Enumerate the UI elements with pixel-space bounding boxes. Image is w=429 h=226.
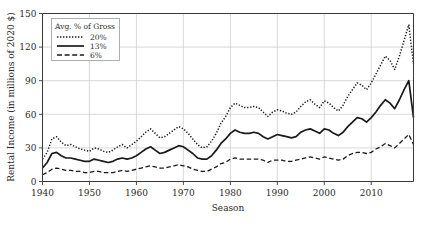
- x-axis-ticks: 19401950196019701980199020002010: [31, 182, 383, 198]
- y-tick-label: 30: [25, 143, 37, 153]
- y-tick-label: 60: [25, 110, 37, 120]
- x-tick-label: 1940: [31, 188, 54, 198]
- x-tick-label: 2010: [360, 188, 383, 198]
- chart-legend: Avg. % of Gross 20% 13% 6%: [52, 19, 120, 61]
- x-axis-title: Season: [212, 203, 245, 213]
- x-tick-label: 1960: [125, 188, 148, 198]
- x-tick-label: 1950: [78, 188, 101, 198]
- x-tick-label: 2000: [313, 188, 336, 198]
- line-chart: 0306090120150 19401950196019701980199020…: [0, 0, 429, 226]
- x-tick-label: 1970: [172, 188, 195, 198]
- legend-label-6: 6%: [90, 51, 102, 60]
- series-line-6pct: [43, 134, 414, 174]
- y-axis-title: Rental Income (in millions of 2020 $): [6, 12, 16, 182]
- y-tick-label: 120: [19, 42, 36, 52]
- y-axis-ticks: 0306090120150: [19, 9, 42, 187]
- y-tick-label: 0: [31, 177, 37, 187]
- legend-title: Avg. % of Gross: [54, 22, 115, 31]
- legend-label-13: 13%: [90, 42, 107, 51]
- x-tick-label: 1990: [266, 188, 289, 198]
- y-tick-label: 150: [19, 9, 36, 19]
- y-tick-label: 90: [25, 76, 37, 86]
- legend-label-20: 20%: [90, 33, 107, 42]
- chart-figure: 0306090120150 19401950196019701980199020…: [0, 0, 429, 226]
- series-line-13pct: [43, 81, 414, 168]
- x-tick-label: 1980: [219, 188, 242, 198]
